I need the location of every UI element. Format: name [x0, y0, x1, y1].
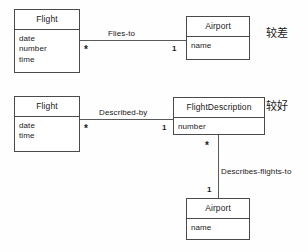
association-line-described-by: [80, 119, 173, 120]
multiplicity-target-described-by: 1: [162, 124, 166, 132]
attribute-row: date: [19, 121, 79, 132]
association-line-flies-to: [80, 40, 187, 41]
class-name-flight-bottom: Flight: [15, 97, 79, 117]
attribute-row: number: [19, 44, 79, 55]
class-name-airport-top: Airport: [187, 17, 249, 37]
multiplicity-source-described-by: *: [84, 125, 88, 133]
class-name-flight-top: Flight: [15, 10, 79, 30]
association-label-described-by: Described-by: [99, 108, 147, 117]
class-box-airport-top[interactable]: Airport name: [186, 16, 250, 60]
attribute-row: date: [19, 34, 79, 45]
attribute-row: name: [191, 41, 249, 52]
association-line-describes-flights-to: [218, 135, 219, 198]
annotation-bottom-variant: 较好: [266, 100, 288, 112]
annotation-top-variant: 较差: [266, 27, 288, 39]
class-attributes-airport-top: name: [187, 37, 249, 55]
multiplicity-source-describes-flights-to: *: [205, 142, 209, 150]
class-attributes-airport-bottom: name: [187, 219, 249, 237]
multiplicity-target-describes-flights-to: 1: [207, 186, 211, 194]
multiplicity-target-flies-to: 1: [172, 45, 176, 53]
attribute-row: time: [19, 131, 79, 142]
class-attributes-flight-top: date number time: [15, 30, 79, 69]
attribute-row: name: [191, 223, 249, 234]
class-name-airport-bottom: Airport: [187, 199, 249, 219]
association-label-flies-to: Flies-to: [108, 29, 135, 38]
class-name-flightdescription: FlightDescription: [174, 98, 264, 118]
attribute-row: time: [19, 55, 79, 66]
class-attributes-flightdescription: number: [174, 118, 264, 136]
class-attributes-flight-bottom: date time: [15, 117, 79, 145]
attribute-row: number: [178, 122, 264, 133]
class-box-flight-top[interactable]: Flight date number time: [14, 9, 80, 73]
class-box-airport-bottom[interactable]: Airport name: [186, 198, 250, 240]
diagram-canvas: Flight date number time Flies-to * 1 Air…: [0, 0, 308, 252]
class-box-flightdescription[interactable]: FlightDescription number: [173, 97, 265, 135]
multiplicity-source-flies-to: *: [84, 46, 88, 54]
class-box-flight-bottom[interactable]: Flight date time: [14, 96, 80, 152]
association-label-describes-flights-to: Describes-flights-to: [221, 167, 291, 176]
